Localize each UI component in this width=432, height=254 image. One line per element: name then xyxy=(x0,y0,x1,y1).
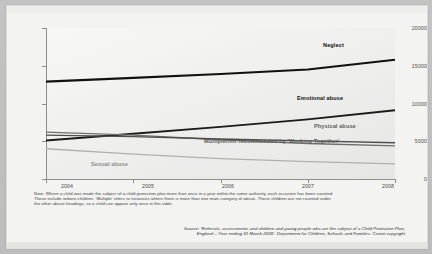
card-top-strip xyxy=(7,6,427,13)
page-background: 20000 15000 10000 5000 0 2004 2005 2006 … xyxy=(0,0,432,254)
x-tick-label-2004: 2004 xyxy=(61,183,73,189)
chart-note: Note: Where a child was made the subject… xyxy=(34,191,414,206)
y-tick-label-10000: 10000 xyxy=(393,101,427,107)
y-tick-label-0: 0 xyxy=(393,176,427,182)
x-tick-label-2006: 2006 xyxy=(222,183,234,189)
y-tick-label-5000: 5000 xyxy=(393,138,427,144)
series-label-physical-abuse: Physical abuse xyxy=(314,123,356,129)
chart-source: Source: 'Referrals, assessments and chil… xyxy=(85,226,405,237)
line-neglect xyxy=(46,60,395,82)
chart-note-line-3: the other abuse headings, so a child can… xyxy=(34,201,414,206)
series-label-emotional-abuse: Emotional abuse xyxy=(297,95,343,101)
x-tick-2008 xyxy=(395,179,396,183)
x-tick-2004 xyxy=(46,179,47,183)
chart-source-line-2: England – Year ending 31 March 2008'. De… xyxy=(85,231,405,236)
x-tick-label-2007: 2007 xyxy=(302,183,314,189)
chart-card: 20000 15000 10000 5000 0 2004 2005 2006 … xyxy=(6,5,428,249)
x-tick-2005 xyxy=(133,179,134,183)
series-lines xyxy=(46,28,395,179)
x-tick-label-2008: 2008 xyxy=(382,183,394,189)
card-bottom-strip xyxy=(7,242,427,248)
y-tick-label-15000: 15000 xyxy=(393,63,427,69)
x-tick-label-2005: 2005 xyxy=(142,183,154,189)
series-label-multiple-not-recommended: Multiple/not recommended by 'Working Tog… xyxy=(204,138,339,144)
series-label-sexual-abuse: Sexual abuse xyxy=(91,161,128,167)
y-tick-label-20000: 20000 xyxy=(393,25,427,31)
series-label-neglect: Neglect xyxy=(323,42,344,48)
